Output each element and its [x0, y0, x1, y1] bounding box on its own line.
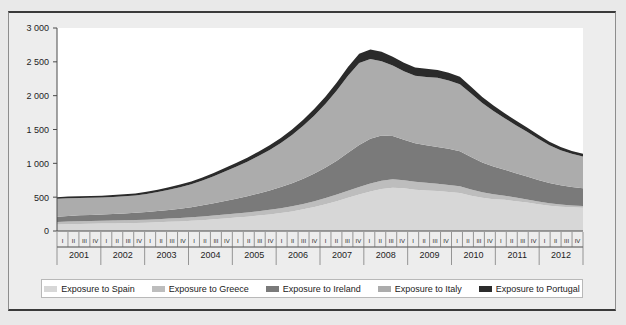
- x-axis-quarter-label: III: [301, 238, 306, 244]
- x-axis-year-label: 2011: [508, 250, 527, 260]
- x-axis-year-label: 2004: [200, 250, 220, 260]
- x-axis-quarter-label: IV: [136, 238, 142, 244]
- x-axis-quarter-label: IV: [443, 238, 449, 244]
- x-axis-quarter-label: II: [291, 238, 295, 244]
- x-axis-quarter-label: III: [126, 238, 131, 244]
- x-axis-quarter-label: III: [433, 238, 438, 244]
- x-axis-year-label: 2010: [463, 250, 483, 260]
- x-axis-quarter-label: II: [466, 238, 470, 244]
- x-axis-quarter-label: IV: [487, 238, 493, 244]
- chart-legend: Exposure to SpainExposure to GreeceExpos…: [41, 279, 583, 298]
- legend-label: Exposure to Spain: [61, 284, 135, 294]
- x-axis-quarter-label: II: [554, 238, 558, 244]
- legend-swatch-icon: [266, 286, 279, 292]
- legend-swatch-icon: [378, 286, 391, 292]
- chart-svg: 05001 0001 5002 0002 5003 000 IIIIIIIVII…: [0, 0, 626, 325]
- y-axis-tick-label: 0: [44, 226, 49, 236]
- legend-item-exposure-to-italy[interactable]: Exposure to Italy: [378, 284, 462, 294]
- legend-swatch-icon: [44, 286, 57, 292]
- x-axis-year-label: 2005: [244, 250, 264, 260]
- legend-item-exposure-to-greece[interactable]: Exposure to Greece: [152, 284, 249, 294]
- x-axis-quarter-label: I: [544, 238, 546, 244]
- y-axis-tick-label: 2 500: [26, 57, 49, 67]
- y-axis-tick-label: 1 500: [26, 125, 49, 135]
- x-axis-quarter-label: I: [325, 238, 327, 244]
- x-axis-quarter-label: I: [193, 238, 195, 244]
- x-axis-quarter-label: IV: [575, 238, 581, 244]
- x-axis-quarter-label: IV: [399, 238, 405, 244]
- y-axis-tick-label: 500: [34, 193, 49, 203]
- x-axis-quarter-label: III: [213, 238, 218, 244]
- x-axis-quarter-label: I: [456, 238, 458, 244]
- y-axis-tick-label: 3 000: [26, 23, 49, 33]
- legend-item-exposure-to-portugal[interactable]: Exposure to Portugal: [479, 284, 580, 294]
- legend-swatch-icon: [152, 286, 165, 292]
- x-axis-year-label: 2007: [332, 250, 352, 260]
- x-axis-quarter-label: IV: [312, 238, 318, 244]
- x-axis-quarter-label: II: [247, 238, 251, 244]
- y-axis-tick-label: 2 000: [26, 91, 49, 101]
- x-axis-quarter-label: II: [379, 238, 383, 244]
- x-axis-quarter-label: I: [62, 238, 64, 244]
- stacked-area-chart: 05001 0001 5002 0002 5003 000 IIIIIIIVII…: [0, 0, 626, 325]
- x-axis-quarter-label: IV: [531, 238, 537, 244]
- x-axis-quarter-label: IV: [93, 238, 99, 244]
- x-axis-quarter-label: II: [335, 238, 339, 244]
- x-axis-year-label: 2009: [420, 250, 440, 260]
- x-axis-quarter-label: I: [149, 238, 151, 244]
- x-axis-year-label: 2012: [551, 250, 571, 260]
- x-axis-quarter-label: II: [510, 238, 514, 244]
- legend-label: Exposure to Ireland: [283, 284, 361, 294]
- x-axis-quarter-label: III: [520, 238, 525, 244]
- x-axis-quarter-label: II: [72, 238, 76, 244]
- x-axis-quarter-label: II: [116, 238, 120, 244]
- legend-item-exposure-to-spain[interactable]: Exposure to Spain: [44, 284, 135, 294]
- x-axis-year-label: 2002: [113, 250, 133, 260]
- x-axis-quarter-label: III: [170, 238, 175, 244]
- x-axis-quarter-label: II: [159, 238, 163, 244]
- legend-label: Exposure to Greece: [169, 284, 249, 294]
- x-axis-quarter-label: I: [105, 238, 107, 244]
- x-axis-quarter-label: II: [203, 238, 207, 244]
- x-axis-year-label: 2006: [288, 250, 308, 260]
- x-axis-quarter-label: II: [422, 238, 426, 244]
- x-axis-quarter-label: I: [237, 238, 239, 244]
- x-axis-quarter-label: I: [412, 238, 414, 244]
- x-axis-quarter-label: IV: [356, 238, 362, 244]
- x-axis-quarter-label: IV: [268, 238, 274, 244]
- x-axis-quarter-label: IV: [224, 238, 230, 244]
- x-axis-quarter-label: III: [389, 238, 394, 244]
- x-axis-quarter-label: III: [564, 238, 569, 244]
- y-axis: 05001 0001 5002 0002 5003 000: [26, 23, 57, 236]
- x-axis-quarter-label: III: [476, 238, 481, 244]
- x-axis-quarter-label: III: [257, 238, 262, 244]
- x-axis-quarter-label: I: [281, 238, 283, 244]
- x-axis-year-label: 2003: [157, 250, 177, 260]
- legend-swatch-icon: [479, 286, 492, 292]
- x-axis-quarter-label: I: [368, 238, 370, 244]
- legend-label: Exposure to Italy: [395, 284, 462, 294]
- x-axis-quarter-label: I: [500, 238, 502, 244]
- x-axis: IIIIIIIVIIIIIIIVIIIIIIIVIIIIIIIVIIIIIIIV…: [57, 231, 583, 265]
- x-axis-quarter-label: III: [345, 238, 350, 244]
- legend-item-exposure-to-ireland[interactable]: Exposure to Ireland: [266, 284, 361, 294]
- legend-label: Exposure to Portugal: [496, 284, 580, 294]
- x-axis-quarter-label: IV: [180, 238, 186, 244]
- x-axis-year-label: 2001: [69, 250, 89, 260]
- y-axis-tick-label: 1 000: [26, 159, 49, 169]
- x-axis-quarter-label: III: [82, 238, 87, 244]
- x-axis-year-label: 2008: [376, 250, 396, 260]
